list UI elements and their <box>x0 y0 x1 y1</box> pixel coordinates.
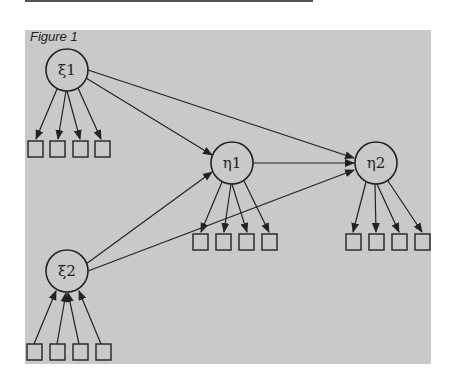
indicator-box <box>73 344 88 360</box>
indicator-box <box>216 234 231 250</box>
indicator-box <box>27 344 42 360</box>
indicator-box <box>346 234 361 250</box>
path-diagram: ξ1 η1 η2 ξ2 <box>0 0 453 381</box>
indicator-box <box>28 141 43 157</box>
indicator-box <box>73 141 88 157</box>
latent-xi1-label: ξ1 <box>58 61 76 79</box>
indicator-box <box>239 234 254 250</box>
indicator-box <box>96 344 111 360</box>
indicator-box <box>262 234 277 250</box>
indicator-box <box>50 141 65 157</box>
latent-xi2-label: ξ2 <box>58 262 76 280</box>
indicator-box <box>415 234 430 250</box>
latent-eta2-label: η2 <box>367 154 386 172</box>
indicator-box <box>95 141 110 157</box>
latent-eta1-label: η1 <box>223 154 242 172</box>
indicator-box <box>392 234 407 250</box>
indicator-box <box>193 234 208 250</box>
indicator-box <box>50 344 65 360</box>
indicator-box <box>369 234 384 250</box>
